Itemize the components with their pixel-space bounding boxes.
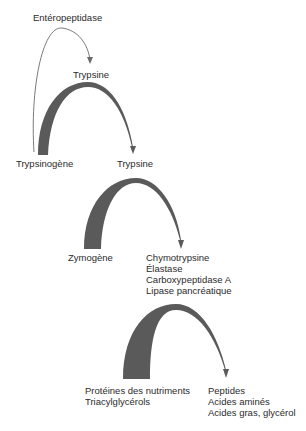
arrowhead-icon: [87, 57, 93, 64]
enzyme-lipase: Lipase pancréatique: [146, 285, 232, 296]
digestion-arc: [123, 304, 226, 379]
substrate-list: Protéines des nutriments Triacylglycérol…: [85, 385, 190, 407]
activation-arc-zymogene: [84, 178, 181, 249]
activation-arc-trypsinogene: [38, 82, 133, 155]
arrowhead-icon: [130, 146, 136, 154]
diagram-arrows: [0, 0, 306, 431]
enzyme-elastase: Élastase: [146, 263, 232, 274]
product-peptides: Peptides: [208, 385, 296, 396]
arrowhead-icon: [223, 369, 229, 378]
label-zymogene: Zymogène: [68, 252, 113, 263]
enzyme-chymotrypsine: Chymotrypsine: [146, 252, 232, 263]
label-enteropeptidase: Entéropeptidase: [33, 12, 102, 23]
substrate-triacylglycerols: Triacylglycérols: [85, 396, 190, 407]
enzyme-carboxypeptidase: Carboxypeptidase A: [146, 274, 232, 285]
label-trypsine-mid: Trypsine: [117, 158, 153, 169]
product-acides-amines: Acides aminés: [208, 396, 296, 407]
product-acides-gras: Acides gras, glycérol: [208, 407, 296, 418]
substrate-proteines: Protéines des nutriments: [85, 385, 190, 396]
product-list: Peptides Acides aminés Acides gras, glyc…: [208, 385, 296, 418]
label-trypsinogene: Trypsinogène: [16, 158, 73, 169]
enzyme-list: Chymotrypsine Élastase Carboxypeptidase …: [146, 252, 232, 296]
label-trypsine-top: Trypsine: [73, 69, 109, 80]
arrowhead-icon: [178, 240, 184, 249]
